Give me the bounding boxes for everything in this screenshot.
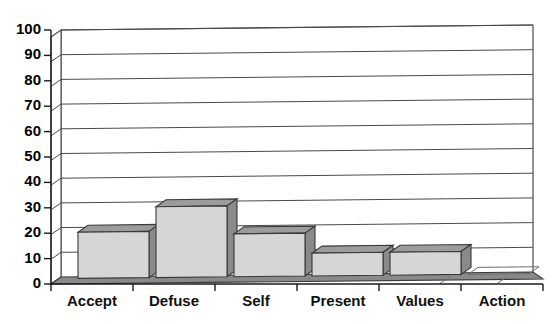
xtick-label-present: Present bbox=[310, 292, 365, 309]
ytick-label: 0 bbox=[33, 274, 41, 291]
bar-accept bbox=[78, 224, 159, 278]
ytick-label: 70 bbox=[24, 96, 41, 113]
bar-chart-figure: 100 90 80 70 60 50 40 30 20 10 0 Accept bbox=[0, 0, 558, 324]
value-axis-labels: 100 90 80 70 60 50 40 30 20 10 0 bbox=[16, 20, 41, 291]
xtick-label-accept: Accept bbox=[67, 292, 117, 309]
ytick-label: 40 bbox=[24, 172, 41, 189]
category-axis-labels: Accept Defuse Self Present Values Action bbox=[67, 292, 525, 309]
ytick-label: 50 bbox=[24, 147, 41, 164]
bar-values bbox=[390, 245, 471, 276]
bar-present bbox=[312, 245, 393, 276]
ytick-label: 100 bbox=[16, 20, 41, 37]
ytick-label: 10 bbox=[24, 249, 41, 266]
left-side-wall bbox=[51, 30, 61, 284]
xtick-label-self: Self bbox=[242, 292, 271, 309]
ytick-label: 20 bbox=[24, 223, 41, 240]
ytick-label: 60 bbox=[24, 122, 41, 139]
category-axis bbox=[51, 284, 543, 291]
ytick-label: 80 bbox=[24, 71, 41, 88]
ytick-label: 30 bbox=[24, 198, 41, 215]
ytick-label: 90 bbox=[24, 45, 41, 62]
xtick-label-values: Values bbox=[396, 292, 444, 309]
xtick-label-action: Action bbox=[479, 292, 526, 309]
xtick-label-defuse: Defuse bbox=[149, 292, 199, 309]
bar-defuse bbox=[156, 199, 237, 278]
chart-canvas: 100 90 80 70 60 50 40 30 20 10 0 Accept bbox=[0, 0, 558, 324]
value-axis bbox=[44, 30, 51, 284]
bar-self bbox=[234, 226, 315, 277]
